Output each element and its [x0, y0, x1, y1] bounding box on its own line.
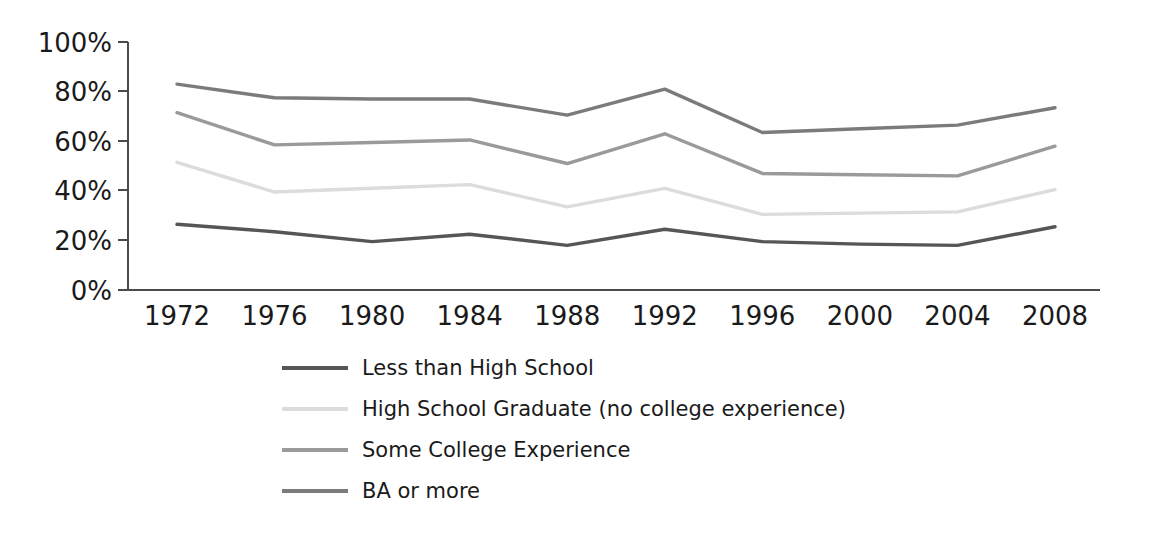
y-tick-marks: [118, 42, 128, 290]
y-tick-label-20: 20%: [54, 226, 112, 256]
line-chart: 100% 80% 60% 40% 20% 0% 1972197619801984…: [0, 0, 1154, 557]
series-line-less-than-high-school: [177, 224, 1055, 245]
series-line-high-school-graduate-no-college-experience: [177, 162, 1055, 214]
chart-legend: Less than High SchoolHigh School Graduat…: [282, 356, 846, 503]
series-layer: [177, 84, 1055, 245]
legend-item-high-school-graduate-no-college-experience[interactable]: High School Graduate (no college experie…: [282, 397, 846, 421]
x-tick-label-1976: 1976: [241, 301, 307, 331]
x-tick-label-1980: 1980: [339, 301, 405, 331]
axes-group: [118, 42, 1100, 290]
x-tick-label-1996: 1996: [729, 301, 795, 331]
y-tick-label-40: 40%: [54, 176, 112, 206]
legend-item-ba-or-more[interactable]: BA or more: [282, 479, 480, 503]
series-line-some-college-experience: [177, 113, 1055, 176]
legend-label-less-than-high-school: Less than High School: [362, 356, 594, 380]
y-tick-label-0: 0%: [71, 276, 112, 306]
y-tick-label-60: 60%: [54, 127, 112, 157]
legend-item-some-college-experience[interactable]: Some College Experience: [282, 438, 630, 462]
legend-item-less-than-high-school[interactable]: Less than High School: [282, 356, 594, 380]
chart-canvas: 100% 80% 60% 40% 20% 0% 1972197619801984…: [0, 0, 1154, 557]
y-tick-label-100: 100%: [38, 28, 112, 58]
y-tick-label-80: 80%: [54, 77, 112, 107]
series-line-ba-or-more: [177, 84, 1055, 132]
axis-lines: [128, 42, 1100, 290]
x-tick-labels: 1972197619801984198819921996200020042008: [144, 301, 1088, 331]
x-tick-label-2008: 2008: [1022, 301, 1088, 331]
legend-label-ba-or-more: BA or more: [362, 479, 480, 503]
legend-label-some-college-experience: Some College Experience: [362, 438, 630, 462]
x-tick-label-2000: 2000: [827, 301, 893, 331]
y-tick-labels: 100% 80% 60% 40% 20% 0%: [38, 28, 112, 306]
x-tick-label-1988: 1988: [534, 301, 600, 331]
x-tick-label-2004: 2004: [924, 301, 990, 331]
legend-label-high-school-graduate-no-college-experience: High School Graduate (no college experie…: [362, 397, 846, 421]
x-tick-label-1984: 1984: [437, 301, 503, 331]
x-tick-label-1992: 1992: [632, 301, 698, 331]
x-tick-label-1972: 1972: [144, 301, 210, 331]
